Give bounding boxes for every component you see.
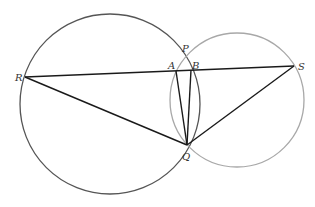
geometry-diagram: R P A B S Q — [0, 0, 315, 207]
label-A: A — [167, 60, 175, 71]
label-P: P — [181, 43, 189, 54]
segment-SQ — [187, 66, 294, 145]
segment-RS — [25, 66, 294, 77]
segment-RQ — [25, 77, 187, 145]
label-B: B — [191, 60, 199, 71]
segment-BQ — [187, 70, 191, 145]
label-R: R — [14, 72, 23, 83]
segment-AQ — [176, 71, 187, 145]
label-Q: Q — [182, 151, 190, 162]
label-S: S — [298, 61, 305, 72]
large-circle — [20, 14, 200, 194]
